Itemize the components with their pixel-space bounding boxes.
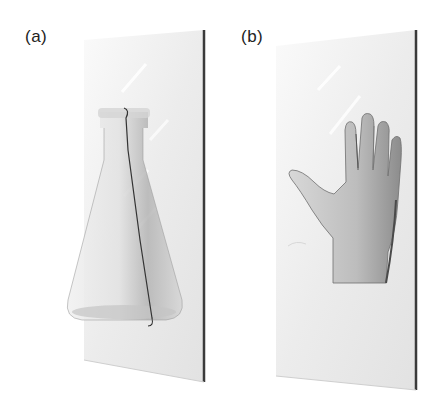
figure-illustration	[0, 0, 437, 406]
